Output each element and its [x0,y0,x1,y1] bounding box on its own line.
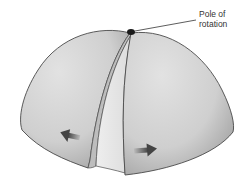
pole-label-line1: Pole of [199,9,227,19]
pole-leader-line [135,20,196,31]
dome-right-half [123,32,233,175]
pole-of-rotation-label: Pole of rotation [199,9,227,29]
pole-of-rotation-dot [127,29,135,35]
pole-label-line2: rotation [199,19,227,29]
